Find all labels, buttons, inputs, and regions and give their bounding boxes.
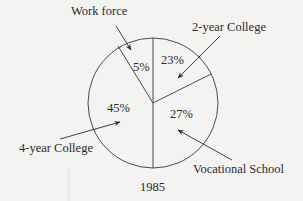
label-four-year: 4-year College xyxy=(19,141,93,155)
label-two-year: 2-year College xyxy=(192,20,266,34)
pct-two-year: 23% xyxy=(161,53,184,67)
chart-year-caption: 1985 xyxy=(140,180,165,194)
arrow-two-year xyxy=(178,36,220,78)
pct-work-force: 5% xyxy=(133,60,150,74)
divider-two-year xyxy=(153,74,211,103)
arrow-vocational xyxy=(178,130,232,160)
pie-chart: Work force 2-year College 4-year College… xyxy=(0,0,303,201)
label-vocational: Vocational School xyxy=(193,162,284,176)
pct-four-year: 45% xyxy=(107,101,130,115)
divider-work-force xyxy=(118,46,153,103)
pct-vocational: 27% xyxy=(170,107,193,121)
label-work-force: Work force xyxy=(71,4,127,18)
arrow-four-year xyxy=(60,122,120,139)
